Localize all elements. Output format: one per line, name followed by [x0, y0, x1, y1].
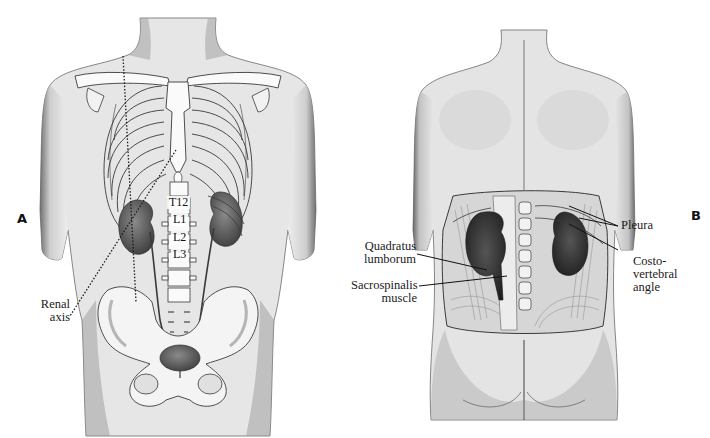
vertebra-label-t12: T12: [167, 196, 190, 209]
panel-b-posterior-view: B Quadratus lumborum Sacrospinalis muscl…: [355, 0, 710, 438]
panel-a-anterior-view: A T12 L1 L2 L3 Renal axis: [0, 0, 355, 438]
panel-letter-b: B: [691, 208, 701, 223]
vertebra-label-l3: L3: [171, 248, 188, 261]
spine-posterior: [519, 202, 531, 310]
renal-axis-label: Renal axis: [36, 298, 70, 324]
posterior-torso-illustration: [355, 0, 710, 438]
vertebra-label-l2: L2: [171, 231, 188, 244]
kidney-right: [119, 200, 154, 254]
bladder: [160, 345, 200, 371]
sacrospinalis-muscle-label: Sacrospinalis muscle: [351, 279, 417, 305]
quadratus-lumborum-label: Quadratus lumborum: [355, 240, 416, 266]
panel-letter-a: A: [17, 211, 27, 226]
costovertebral-angle-label: Costo- vertebral angle: [633, 255, 677, 294]
pleura-label: Pleura: [621, 219, 653, 232]
vertebra-label-l1: L1: [171, 213, 188, 226]
